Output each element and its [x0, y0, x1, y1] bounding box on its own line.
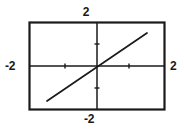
axis-label-left: -2	[5, 60, 15, 72]
axis-label-bottom: -2	[0, 113, 181, 125]
axis-label-top: 2	[0, 6, 178, 18]
axis-label-right: 2	[170, 60, 176, 72]
cartesian-plot-figure	[0, 0, 184, 129]
